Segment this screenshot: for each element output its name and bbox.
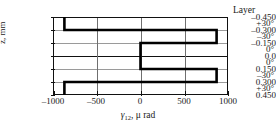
x-axis-title-units: , μ rad <box>131 110 155 120</box>
x-tick-label-4: 1000 <box>198 97 258 106</box>
figure-shear-strain-through-thickness: z, mm –0.450 –0.300 –0.150 0.0 0.150 0.3… <box>0 0 276 129</box>
legend-item-layer-5: +30° <box>233 84 274 93</box>
legend-item-layer-0: +30° <box>233 19 274 28</box>
legend-item-layer-1: –30° <box>233 32 274 41</box>
gamma12-step-path <box>53 17 228 95</box>
x-axis-title: γ12, μ rad <box>0 110 276 123</box>
legend-item-layer-3: 0° <box>233 58 274 67</box>
y-axis-title: z, mm <box>0 22 7 45</box>
legend-item-layer-4: –30° <box>233 71 274 80</box>
legend-item-layer-2: 0° <box>233 45 274 54</box>
legend-header: Layer <box>233 5 255 15</box>
data-series-gamma12 <box>53 17 228 95</box>
